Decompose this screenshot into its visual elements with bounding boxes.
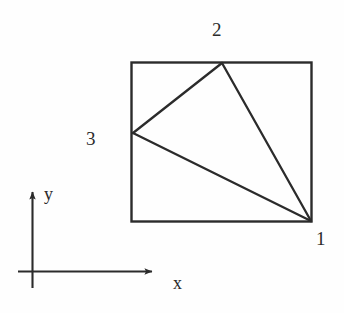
triangle-edge-3-1	[133, 133, 311, 221]
axis-label-x: x	[173, 274, 182, 292]
vertex-label-1: 1	[316, 229, 326, 248]
figure-canvas: 1 2 3 x y	[0, 0, 344, 313]
triangle-edge-2-3	[133, 63, 222, 133]
square-outline	[132, 63, 312, 222]
triangle-edge-1-2	[222, 63, 311, 221]
diagram-svg	[0, 0, 344, 313]
axis-label-y: y	[44, 185, 53, 203]
vertex-label-3: 3	[86, 129, 96, 148]
vertex-label-2: 2	[212, 20, 222, 39]
